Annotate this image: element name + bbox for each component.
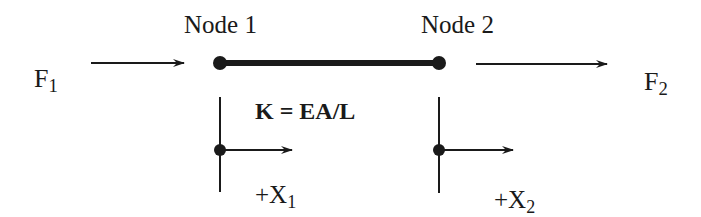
force-2-label: F2 xyxy=(644,69,668,95)
force-1-subscript: 1 xyxy=(48,75,57,96)
force-1-symbol: F xyxy=(34,64,48,93)
force-2-subscript: 2 xyxy=(658,78,667,99)
force-2-symbol: F xyxy=(644,67,658,96)
displacement-2-subscript: 2 xyxy=(526,197,535,217)
displacement-2-prefix: +X xyxy=(494,186,526,213)
stiffness-label: K = EA/L xyxy=(255,99,355,123)
force-1-label: F1 xyxy=(34,66,58,92)
displacement-1-subscript: 1 xyxy=(287,192,296,212)
node-2-dot xyxy=(432,56,446,70)
displacement-2-marker xyxy=(433,97,513,193)
displacement-1-label: +X1 xyxy=(255,182,296,207)
displacement-1-prefix: +X xyxy=(255,181,287,208)
node-1-label: Node 1 xyxy=(184,12,257,37)
node-2-label: Node 2 xyxy=(421,12,494,37)
node-1-dot xyxy=(213,56,227,70)
displacement-2-label: +X2 xyxy=(494,187,535,212)
